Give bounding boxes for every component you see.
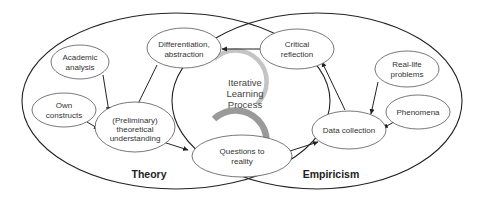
edge-differentiation-to-theoretical [136,65,157,108]
svg-text:Process: Process [228,99,263,110]
edge-reallife-to-datacollection [371,82,378,114]
svg-text:problems: problems [391,70,424,79]
node-differentiation-abstraction: Differentiation, abstraction [147,28,221,68]
svg-text:Academic: Academic [62,53,97,62]
svg-text:theoretical: theoretical [117,125,154,134]
theory-label: Theory [131,168,166,180]
svg-text:Real-life: Real-life [392,60,422,69]
svg-text:Data collection: Data collection [323,126,375,135]
svg-text:Iterative: Iterative [228,77,262,88]
svg-text:reality: reality [231,157,252,166]
edge-datacollection-to-critical [322,62,345,110]
svg-text:Differentiation,: Differentiation, [158,40,209,49]
svg-text:constructs: constructs [46,111,82,120]
node-own-constructs: Own constructs [32,93,96,127]
node-data-collection: Data collection [312,111,386,149]
svg-text:Phenomena: Phenomena [396,108,440,117]
node-real-life-problems: Real-life problems [375,51,439,87]
node-phenomena: Phenomena [386,95,450,129]
node-academic-analysis: Academic analysis [51,45,109,79]
iterative-learning-diagram: Theory Empiricism Academic analysis Own … [0,0,479,200]
svg-text:analysis: analysis [66,63,95,72]
svg-text:Own: Own [56,101,72,110]
node-critical-reflection: Critical reflection [260,29,334,69]
svg-text:Critical: Critical [285,40,310,49]
svg-text:Learning: Learning [227,88,264,99]
edge-academic-to-theoretical [103,75,109,112]
svg-text:understanding: understanding [110,134,161,143]
svg-text:Questions to: Questions to [220,147,265,156]
svg-text:reflection: reflection [281,50,313,59]
svg-text:abstraction: abstraction [164,50,203,59]
svg-text:(Preliminary): (Preliminary) [112,116,158,125]
center-label: Iterative Learning Process [227,77,264,110]
empiricism-label: Empiricism [303,168,360,180]
node-theoretical-understanding: (Preliminary) theoretical understanding [95,102,175,152]
node-questions-to-reality: Questions to reality [192,135,292,177]
